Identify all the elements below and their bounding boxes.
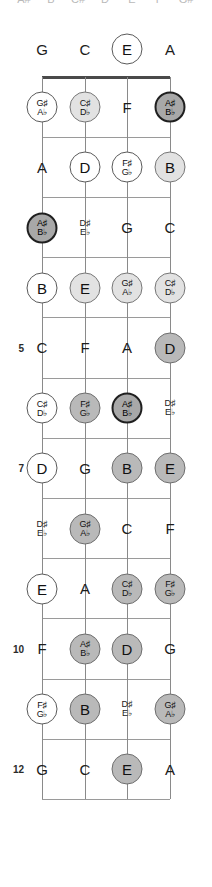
note-label: F♯G♭ [37,700,48,718]
fret-line-10 [42,679,170,680]
note-label: A♯B♭ [80,640,90,658]
note-As-Bb-f1-s3[interactable]: A♯B♭ [155,92,186,123]
fret-line-9 [42,618,170,619]
note-label: F♯G♭ [122,158,133,176]
note-label: D [37,461,48,476]
note-A-f2-s0[interactable]: A [25,150,59,184]
note-natural: E [122,762,132,777]
string-line-C [85,77,86,799]
note-E-f12-s2[interactable]: E [112,754,143,785]
note-Cs-Db-f6-s0[interactable]: C♯D♭ [27,393,58,424]
note-label: F♯G♭ [165,580,176,598]
note-natural: C [80,42,91,57]
note-B-f2-s3[interactable]: B [155,152,186,183]
note-D-f2-s1[interactable]: D [70,152,101,183]
note-Ds-Eb-f8-s0[interactable]: D♯E♭ [25,512,59,546]
note-B-f7-s2[interactable]: B [112,453,143,484]
note-A-f9-s1[interactable]: A [68,572,102,606]
note-label: C♯D♭ [122,580,133,598]
note-C-f0-s1[interactable]: C [68,32,102,66]
note-As-Bb-f3-s0[interactable]: A♯B♭ [27,212,58,243]
note-label: D♯E♭ [80,219,91,237]
note-Gs-Ab-f8-s1[interactable]: G♯A♭ [70,513,101,544]
note-label: A♯B♭ [122,399,132,417]
note-As-Bb-f6-s2[interactable]: A♯B♭ [112,393,143,424]
note-label: A♯B♭ [37,219,47,237]
note-label: F [122,100,131,115]
note-A-f0-s3[interactable]: A [153,32,187,66]
note-Gs-Ab-f1-s0[interactable]: G♯A♭ [27,92,58,123]
note-flat: D♭ [80,107,90,116]
note-natural: F [165,521,174,536]
note-label: A♯B♭ [165,98,175,116]
note-flat: G♭ [37,709,48,718]
string-line-A [170,77,171,799]
fret-line-6 [42,438,170,439]
note-Fs-Gb-f11-s0[interactable]: F♯G♭ [27,694,58,725]
note-natural: D [80,160,91,175]
note-E-f0-s2[interactable]: E [112,34,143,65]
note-Gs-Ab-f11-s3[interactable]: G♯A♭ [155,694,186,725]
note-natural: E [37,581,47,596]
note-C-f3-s3[interactable]: C [153,211,187,245]
note-natural: B [165,160,175,175]
note-Gs-Ab-f4-s2[interactable]: G♯A♭ [112,272,143,303]
note-label: B [37,280,47,295]
note-G-f3-s2[interactable]: G [110,211,144,245]
note-C-f5-s0[interactable]: C [25,331,59,365]
string-line-G [42,77,43,799]
note-Cs-Db-f1-s1[interactable]: C♯D♭ [70,92,101,123]
note-label: C♯D♭ [37,399,48,417]
note-Fs-Gb-f9-s3[interactable]: F♯G♭ [155,573,186,604]
note-label: D [80,160,91,175]
note-label: C♯D♭ [80,98,91,116]
note-A-f5-s2[interactable]: A [110,331,144,365]
note-As-Bb-f10-s1[interactable]: A♯B♭ [70,633,101,664]
note-E-f7-s3[interactable]: E [155,453,186,484]
clipped-header-item: A# [17,0,30,5]
note-Cs-Db-f4-s3[interactable]: C♯D♭ [155,272,186,303]
clipped-header-row: A#BC#DEFG# [0,0,212,7]
note-label: D♯E♭ [37,520,48,538]
clipped-header-item: G# [179,0,194,5]
note-flat: E♭ [80,228,90,237]
note-A-f12-s3[interactable]: A [153,752,187,786]
note-G-f10-s3[interactable]: G [153,632,187,666]
note-Ds-Eb-f6-s3[interactable]: D♯E♭ [153,391,187,425]
note-G-f0-s0[interactable]: G [25,32,59,66]
note-Cs-Db-f9-s2[interactable]: C♯D♭ [112,573,143,604]
note-Ds-Eb-f11-s2[interactable]: D♯E♭ [110,692,144,726]
note-Ds-Eb-f3-s1[interactable]: D♯E♭ [68,211,102,245]
note-natural: D [165,340,176,355]
note-label: D♯E♭ [122,700,133,718]
note-label: C [37,340,48,355]
note-label: E [80,280,90,295]
note-Fs-Gb-f2-s2[interactable]: F♯G♭ [112,152,143,183]
note-natural: C [37,340,48,355]
note-G-f12-s0[interactable]: G [25,752,59,786]
fret-line-5 [42,378,170,379]
clipped-header-item: E [128,0,135,5]
note-B-f4-s0[interactable]: B [27,272,58,303]
note-natural: B [37,280,47,295]
note-Fs-Gb-f6-s1[interactable]: F♯G♭ [70,393,101,424]
note-flat: E♭ [165,408,175,417]
note-F-f8-s3[interactable]: F [153,512,187,546]
fret-line-4 [42,317,170,318]
note-C-f8-s2[interactable]: C [110,512,144,546]
note-F-f10-s0[interactable]: F [25,632,59,666]
note-natural: F [37,641,46,656]
note-B-f11-s1[interactable]: B [70,694,101,725]
note-natural: G [36,762,48,777]
note-D-f10-s2[interactable]: D [112,633,143,664]
note-D-f5-s3[interactable]: D [155,332,186,363]
note-F-f1-s2[interactable]: F [110,90,144,124]
note-D-f7-s0[interactable]: D [27,453,58,484]
note-F-f5-s1[interactable]: F [68,331,102,365]
note-E-f9-s0[interactable]: E [27,573,58,604]
note-E-f4-s1[interactable]: E [70,272,101,303]
note-G-f7-s1[interactable]: G [68,451,102,485]
note-label: C [122,521,133,536]
note-C-f12-s1[interactable]: C [68,752,102,786]
note-natural: G [164,641,176,656]
